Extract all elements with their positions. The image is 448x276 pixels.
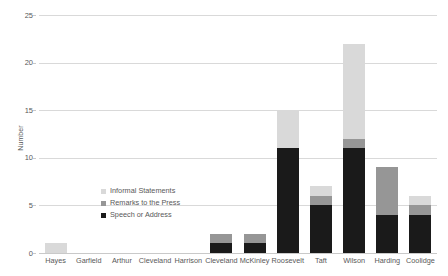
x-axis-tick-label: Harrison <box>172 256 205 266</box>
y-axis-tick-label: 5 <box>3 201 33 210</box>
x-axis-tick-label: Hayes <box>39 256 72 266</box>
bar-group[interactable] <box>238 15 271 253</box>
y-axis-tick-mark <box>33 205 36 206</box>
y-axis-tick-mark <box>33 63 36 64</box>
bar-group[interactable] <box>304 15 337 253</box>
x-axis-tick-label: Coolidge <box>404 256 437 266</box>
y-axis-tick-label: 10 <box>3 153 33 162</box>
bar-segment[interactable] <box>376 215 398 253</box>
bar-segment[interactable] <box>343 148 365 253</box>
y-axis-tick-mark <box>33 15 36 16</box>
bar-segment[interactable] <box>310 196 332 206</box>
y-axis-tick-label: 15 <box>3 106 33 115</box>
legend-swatch-icon <box>101 189 106 194</box>
bar-stack[interactable] <box>376 167 398 253</box>
y-axis-tick-mark <box>33 253 36 254</box>
x-axis-tick-label: Roosevelt <box>271 256 304 266</box>
bar-stack[interactable] <box>45 243 67 253</box>
x-axis-tick-labels: HayesGarfieldArthurClevelandHarrisonClev… <box>39 256 437 274</box>
x-axis-tick-label: Harding <box>371 256 404 266</box>
bar-segment[interactable] <box>277 110 299 148</box>
bar-segment[interactable] <box>376 167 398 215</box>
chart-legend: Informal StatementsRemarks to the PressS… <box>101 186 221 222</box>
bar-segment[interactable] <box>244 243 266 253</box>
bar-group[interactable] <box>338 15 371 253</box>
y-axis-tick-labels: 0510152025 <box>0 0 36 276</box>
x-axis-tick-label: Taft <box>304 256 337 266</box>
legend-label: Speech or Address <box>110 210 172 220</box>
bar-stack[interactable] <box>244 234 266 253</box>
x-axis-tick-label: Cleveland <box>139 256 172 266</box>
y-axis-tick-mark <box>33 110 36 111</box>
legend-swatch-icon <box>101 201 106 206</box>
legend-item[interactable]: Remarks to the Press <box>101 198 221 208</box>
y-axis-tick-label: 25 <box>3 11 33 20</box>
bar-segment[interactable] <box>210 243 232 253</box>
x-axis-tick-label: Arthur <box>105 256 138 266</box>
legend-item[interactable]: Informal Statements <box>101 186 221 196</box>
legend-item[interactable]: Speech or Address <box>101 210 221 220</box>
bar-segment[interactable] <box>409 205 431 215</box>
bar-segment[interactable] <box>343 44 365 139</box>
bar-stack[interactable] <box>277 110 299 253</box>
bar-group[interactable] <box>371 15 404 253</box>
gridline <box>39 253 437 254</box>
y-axis-tick-label: 0 <box>3 249 33 258</box>
y-axis-tick-label: 20 <box>3 58 33 67</box>
bar-stack[interactable] <box>343 44 365 253</box>
bar-segment[interactable] <box>210 234 232 244</box>
legend-swatch-icon <box>101 213 106 218</box>
bar-group[interactable] <box>271 15 304 253</box>
bar-group[interactable] <box>404 15 437 253</box>
legend-label: Remarks to the Press <box>110 198 180 208</box>
plot-area <box>39 15 437 253</box>
y-axis-tick-mark <box>33 158 36 159</box>
bar-segment[interactable] <box>244 234 266 244</box>
x-axis-tick-label: Garfield <box>72 256 105 266</box>
bar-segment[interactable] <box>45 243 67 253</box>
x-axis-tick-label: McKinley <box>238 256 271 266</box>
x-axis-tick-label: Wilson <box>338 256 371 266</box>
bar-stack[interactable] <box>310 186 332 253</box>
bar-segment[interactable] <box>277 148 299 253</box>
bar-segment[interactable] <box>343 139 365 149</box>
bar-group[interactable] <box>39 15 72 253</box>
legend-label: Informal Statements <box>110 186 175 196</box>
bar-stack[interactable] <box>210 234 232 253</box>
bar-segment[interactable] <box>409 215 431 253</box>
bars-layer <box>39 15 437 253</box>
bar-segment[interactable] <box>310 186 332 196</box>
bar-chart: Number 0510152025 HayesGarfieldArthurCle… <box>0 0 448 276</box>
bar-segment[interactable] <box>409 196 431 206</box>
bar-segment[interactable] <box>310 205 332 253</box>
x-axis-tick-label: Cleveland <box>205 256 238 266</box>
bar-stack[interactable] <box>409 196 431 253</box>
